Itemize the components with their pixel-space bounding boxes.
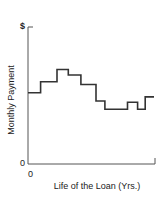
x-axis-title: Life of the Loan (Yrs.)	[54, 182, 141, 191]
x-axis-zero-label: 0	[28, 170, 33, 179]
y-axis-top-label: $	[20, 22, 25, 31]
monthly-payment-step-line	[28, 70, 154, 110]
chart-plot-area	[0, 0, 167, 201]
step-chart: $ 0 0 Monthly Payment Life of the Loan (…	[0, 0, 167, 201]
y-axis-title: Monthly Payment	[7, 65, 16, 135]
y-axis-zero-label: 0	[20, 159, 25, 168]
